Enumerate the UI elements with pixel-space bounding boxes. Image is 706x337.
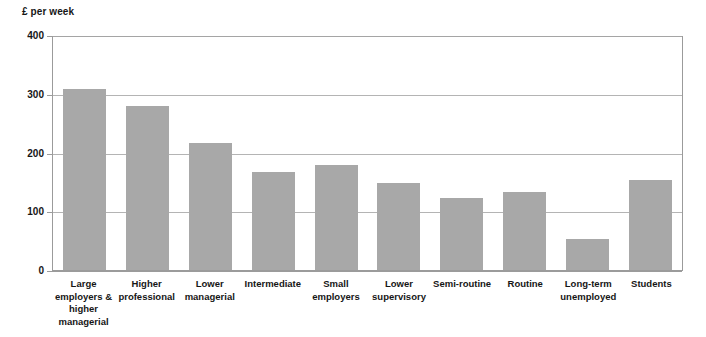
x-axis-category-labels: Largeemployers &highermanagerialHigherpr… xyxy=(52,278,683,328)
x-axis-label: Lowermanagerial xyxy=(178,278,241,303)
y-tick-mark-0 xyxy=(47,271,53,272)
gridline-0 xyxy=(53,271,682,272)
bar xyxy=(189,143,232,270)
bar-slot xyxy=(305,36,368,270)
bar xyxy=(629,180,672,270)
bar-chart: £ per week 0100200300400 Largeemployers … xyxy=(0,0,706,337)
plot-area: 0100200300400 xyxy=(52,36,683,271)
bar xyxy=(126,106,169,271)
bar-slot xyxy=(116,36,179,270)
bar-slot xyxy=(430,36,493,270)
bar xyxy=(63,89,106,270)
y-tick-label-400: 400 xyxy=(27,29,44,42)
x-axis-label: Long-termunemployed xyxy=(557,278,620,303)
bars-group xyxy=(53,36,682,270)
y-tick-label-200: 200 xyxy=(27,147,44,160)
bar-slot xyxy=(53,36,116,270)
bar xyxy=(440,198,483,270)
bar xyxy=(377,183,420,270)
x-axis-label: Routine xyxy=(494,278,557,291)
x-axis-label: Semi-routine xyxy=(431,278,494,291)
bar xyxy=(252,172,295,270)
x-axis-label: Lowersupervisory xyxy=(367,278,430,303)
y-axis-title: £ per week xyxy=(22,6,74,17)
bar-slot xyxy=(556,36,619,270)
bar-slot xyxy=(493,36,556,270)
bar xyxy=(503,192,546,270)
y-tick-label-0: 0 xyxy=(38,264,44,277)
y-tick-label-100: 100 xyxy=(27,205,44,218)
bar xyxy=(566,239,609,270)
bar-slot xyxy=(368,36,431,270)
x-axis-label: Higherprofessional xyxy=(115,278,178,303)
x-axis-label: Smallemployers xyxy=(304,278,367,303)
bar xyxy=(315,165,358,270)
y-tick-label-300: 300 xyxy=(27,88,44,101)
x-axis-label: Students xyxy=(620,278,683,291)
bar-slot xyxy=(619,36,682,270)
x-axis-label: Largeemployers &highermanagerial xyxy=(52,278,115,328)
bar-slot xyxy=(242,36,305,270)
bar-slot xyxy=(179,36,242,270)
x-axis-label: Intermediate xyxy=(241,278,304,291)
